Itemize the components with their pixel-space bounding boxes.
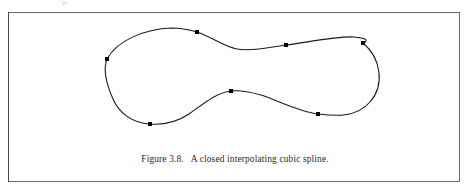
knot-point <box>105 57 109 61</box>
figure-caption-label: Figure 3.8. <box>141 154 184 164</box>
knot-point <box>229 89 233 93</box>
knot-point <box>195 30 199 34</box>
knot-point <box>148 122 152 126</box>
knot-point <box>284 43 288 47</box>
figure-caption: Figure 3.8.A closed interpolating cubic … <box>9 153 461 165</box>
figure-page: Figure 3.8.A closed interpolating cubic … <box>0 0 470 196</box>
figure-frame: Figure 3.8.A closed interpolating cubic … <box>8 12 460 182</box>
scan-artifact <box>62 1 67 5</box>
knot-point <box>361 41 365 45</box>
knot-point <box>316 112 320 116</box>
spline-curve-group <box>105 28 379 124</box>
knot-point-group <box>105 30 365 126</box>
figure-caption-text: A closed interpolating cubic spline. <box>191 154 329 164</box>
spline-curve <box>105 28 379 124</box>
spline-plot <box>9 13 461 141</box>
